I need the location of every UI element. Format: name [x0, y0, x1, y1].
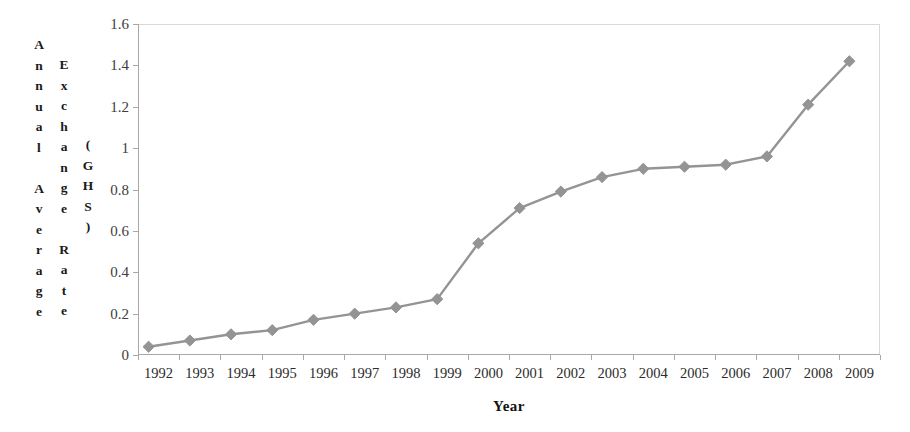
- y-axis-title-column-1: Annual Average: [28, 35, 50, 322]
- y-axis-title-char: a: [53, 137, 75, 158]
- y-axis-title-char: n: [28, 56, 50, 77]
- x-axis-tick-label: 1999: [433, 365, 462, 382]
- series-line: [149, 61, 850, 346]
- y-axis-title-char: R: [53, 240, 75, 261]
- y-axis-tick-label: 0.8: [110, 181, 129, 198]
- y-axis-title-char: H: [77, 176, 99, 197]
- y-axis-title-char: ): [77, 217, 99, 238]
- y-axis-tick-label: 1: [122, 140, 130, 157]
- x-axis-tick-label: 1994: [227, 365, 256, 382]
- x-axis-tick: [798, 355, 799, 360]
- y-axis-tick-label: 1.6: [110, 16, 129, 33]
- y-axis-title-char: A: [28, 35, 50, 56]
- y-axis-title-column-3: (GHS): [77, 135, 99, 238]
- y-axis-title-char: e: [53, 301, 75, 322]
- x-axis-tick: [138, 355, 139, 360]
- x-axis-tick: [880, 355, 881, 360]
- data-point-marker: [308, 314, 319, 325]
- y-axis-title: Annual Average Exchange Rate (GHS): [20, 25, 100, 365]
- data-point-marker: [143, 341, 154, 352]
- y-axis-title-char: c: [53, 96, 75, 117]
- y-axis-title-char: g: [53, 178, 75, 199]
- y-axis-title-char: a: [28, 261, 50, 282]
- data-point-marker: [555, 186, 566, 197]
- y-axis-title-char: v: [28, 199, 50, 220]
- data-point-marker: [349, 308, 360, 319]
- data-point-marker: [679, 161, 690, 172]
- x-axis-tick-label: 2001: [515, 365, 544, 382]
- y-axis-title-char: S: [77, 197, 99, 218]
- chart-figure: Annual Average Exchange Rate (GHS) 00.20…: [0, 0, 910, 432]
- y-axis-title-char: l: [28, 138, 50, 159]
- x-axis-tick: [715, 355, 716, 360]
- y-axis-title-char: A: [28, 179, 50, 200]
- data-point-marker: [720, 159, 731, 170]
- x-axis-tick: [303, 355, 304, 360]
- x-axis-tick-label: 2004: [639, 365, 668, 382]
- y-axis-title-char: t: [53, 281, 75, 302]
- x-axis-tick-label: 2000: [474, 365, 503, 382]
- line-series: [138, 24, 880, 355]
- y-axis-tick-label: 1.2: [110, 98, 129, 115]
- y-axis-tick-label: 0: [122, 347, 130, 364]
- y-axis-tick-label: 0.2: [110, 305, 129, 322]
- x-axis-tick-label: 2008: [804, 365, 833, 382]
- x-axis-tick-label: 1998: [391, 365, 420, 382]
- y-axis-title-char: x: [53, 76, 75, 97]
- x-axis-tick: [509, 355, 510, 360]
- y-axis-tick-label: 1.4: [110, 57, 129, 74]
- x-axis-tick: [591, 355, 592, 360]
- x-axis-tick-label: 2006: [721, 365, 750, 382]
- x-axis-tick-label: 1996: [309, 365, 338, 382]
- y-axis-title-char: E: [53, 55, 75, 76]
- x-axis-tick: [344, 355, 345, 360]
- y-axis-title-char: h: [53, 117, 75, 138]
- data-point-marker: [390, 302, 401, 313]
- x-axis-tick-label: 2002: [556, 365, 585, 382]
- x-axis-tick-label: 2009: [845, 365, 874, 382]
- y-axis-tick-label: 0.6: [110, 222, 129, 239]
- plot-area: 00.20.40.60.811.21.41.6 1992199319941995…: [138, 24, 880, 355]
- data-point-marker: [596, 171, 607, 182]
- x-axis-tick: [220, 355, 221, 360]
- x-axis-tick: [468, 355, 469, 360]
- x-axis-tick: [179, 355, 180, 360]
- y-axis-title-char: e: [53, 199, 75, 220]
- data-point-marker: [184, 335, 195, 346]
- y-axis-title-char: u: [28, 97, 50, 118]
- x-axis-title: Year: [138, 398, 880, 415]
- x-axis-tick-label: 1992: [144, 365, 173, 382]
- x-axis-tick: [262, 355, 263, 360]
- data-point-marker: [225, 329, 236, 340]
- x-axis-tick-label: 1995: [268, 365, 297, 382]
- y-axis-title-char: a: [28, 117, 50, 138]
- x-axis-tick: [839, 355, 840, 360]
- y-axis-title-char: g: [28, 281, 50, 302]
- y-axis-title-char: e: [28, 220, 50, 241]
- x-axis-tick: [550, 355, 551, 360]
- x-axis-tick: [674, 355, 675, 360]
- x-axis-tick: [427, 355, 428, 360]
- y-axis-title-char: (: [77, 135, 99, 156]
- y-axis-title-column-2: Exchange Rate: [53, 55, 75, 322]
- y-axis-title-char: n: [28, 76, 50, 97]
- x-axis-tick: [633, 355, 634, 360]
- x-axis-tick-label: 1997: [350, 365, 379, 382]
- y-axis-title-char: G: [77, 156, 99, 177]
- data-point-marker: [638, 163, 649, 174]
- x-axis-tick: [385, 355, 386, 360]
- x-axis-tick: [756, 355, 757, 360]
- data-point-marker: [267, 325, 278, 336]
- x-axis-tick-label: 2005: [680, 365, 709, 382]
- x-axis-tick-label: 2007: [762, 365, 791, 382]
- y-axis-title-char: r: [28, 240, 50, 261]
- y-axis-title-char: e: [28, 302, 50, 323]
- y-axis-tick-label: 0.4: [110, 264, 129, 281]
- x-axis-tick-label: 1993: [185, 365, 214, 382]
- y-axis-title-char: n: [53, 158, 75, 179]
- y-axis-title-char: a: [53, 260, 75, 281]
- x-axis-tick-label: 2003: [598, 365, 627, 382]
